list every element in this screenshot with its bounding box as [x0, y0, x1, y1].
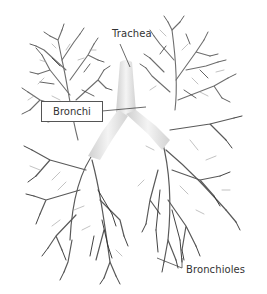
bronchi-label-box: Bronchi	[41, 101, 103, 122]
right-main-bronchus	[126, 110, 170, 150]
left-lung	[22, 24, 128, 284]
trachea	[116, 60, 136, 116]
lungs-illustration	[0, 0, 267, 294]
bronchioles-leader	[157, 258, 182, 268]
bronchioles-label: Bronchioles	[186, 264, 245, 275]
leader-lines	[102, 44, 182, 268]
trachea-label: Trachea	[112, 28, 152, 39]
right-lung	[138, 16, 242, 272]
bronchi-label: Bronchi	[53, 106, 91, 117]
